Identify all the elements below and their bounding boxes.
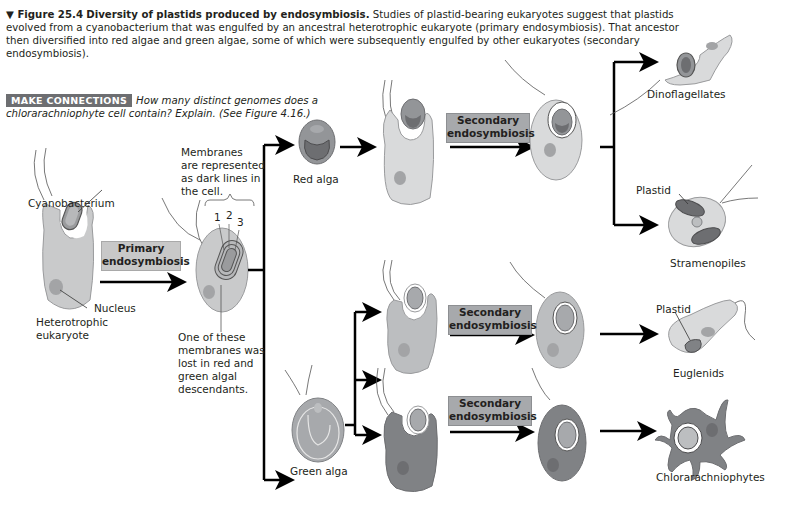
secondary-endosymbiosis-box-red: Secondary endosymbiosis: [446, 113, 530, 143]
membranes-note-line4: the cell.: [181, 185, 223, 198]
membrane-number-1: 1: [214, 211, 221, 224]
green-alga-label: Green alga: [290, 465, 348, 478]
green-bottom-product-cell-icon: [532, 368, 586, 481]
red-alga-icon: [299, 120, 335, 164]
lost-membrane-note-line4: green algal: [178, 370, 237, 383]
secondary-red-line1: Secondary: [447, 114, 529, 127]
chlorarachniophyte-icon: [655, 400, 745, 480]
heterotrophic-label-line1: Heterotrophic: [36, 316, 108, 329]
chlorarachniophytes-label: Chlorarachniophytes: [656, 471, 765, 484]
membrane-number-3: 3: [237, 216, 244, 229]
primary-box-line2: endosymbiosis: [102, 255, 180, 268]
primary-box-line1: Primary: [102, 242, 180, 255]
secondary-green-bottom-line1: Secondary: [449, 397, 531, 410]
dinoflagellates-label: Dinoflagellates: [647, 88, 726, 101]
nucleus-label: Nucleus: [94, 302, 136, 315]
lost-membrane-note-line3: lost in red and: [178, 357, 253, 370]
heterotrophic-eukaryote-icon: [34, 148, 102, 309]
membranes-note-line3: as dark lines in: [181, 172, 260, 185]
secondary-green-top-line1: Secondary: [449, 306, 531, 319]
heterotrophic-label-line2: eukaryote: [36, 329, 89, 342]
stramenopile-plastid-label: Plastid: [636, 184, 671, 197]
secondary-endosymbiosis-box-green-top: Secondary endosymbiosis: [448, 305, 532, 335]
euglenid-plastid-label: Plastid: [656, 303, 691, 316]
euglenids-label: Euglenids: [673, 367, 724, 380]
membrane-number-2: 2: [226, 209, 233, 222]
stramenopiles-label: Stramenopiles: [670, 257, 746, 270]
membranes-note-line2: are represented: [181, 159, 265, 172]
secondary-red-line2: endosymbiosis: [447, 127, 529, 140]
primary-endosymbiosis-box: Primary endosymbiosis: [101, 241, 181, 271]
green-top-engulfing-cell-icon: [383, 260, 437, 374]
membranes-note-line1: Membranes: [181, 146, 243, 159]
dinoflagellate-icon: [610, 35, 732, 115]
lost-membrane-note-line1: One of these: [178, 331, 245, 344]
green-bottom-engulfing-cell-icon: [376, 368, 437, 492]
stramenopile-icon: [662, 165, 758, 254]
green-alga-icon: [285, 365, 344, 462]
cyanobacterium-label: Cyanobacterium: [28, 197, 115, 210]
secondary-green-bottom-line2: endosymbiosis: [449, 410, 531, 423]
secondary-endosymbiosis-box-green-bottom: Secondary endosymbiosis: [448, 396, 532, 426]
red-secondary-engulfing-cell-icon: [383, 80, 434, 205]
secondary-green-top-line2: endosymbiosis: [449, 319, 531, 332]
lost-membrane-note-line2: membranes was: [178, 344, 265, 357]
red-alga-label: Red alga: [293, 173, 339, 186]
lost-membrane-note-line5: descendants.: [178, 383, 248, 396]
